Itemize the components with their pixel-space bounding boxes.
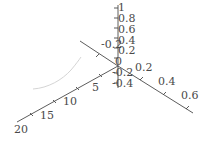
x-tick-label-20: 20: [14, 124, 28, 135]
x-axis-line: [17, 66, 118, 122]
x-tick-label-10: 10: [63, 96, 77, 107]
y-tick-label-0-6: 0.6: [181, 90, 199, 101]
data-curve: [33, 57, 81, 89]
y-tick-label-0-2: 0.2: [135, 62, 153, 73]
x-tick-label-5: 5: [92, 82, 99, 93]
axes-graphic: [0, 0, 215, 141]
plot-canvas: 1 0.8 0.6 0.4 0.2 0 -0.2 -0.4 0.2 0.4 0.…: [0, 0, 215, 141]
z-tick-label-neg-0-4: -0.4: [112, 78, 133, 89]
x-tick-label-15: 15: [40, 110, 54, 121]
y-tick-label-neg-0-2: -0.2: [101, 39, 122, 50]
y-tick-label-0-4: 0.4: [158, 76, 176, 87]
